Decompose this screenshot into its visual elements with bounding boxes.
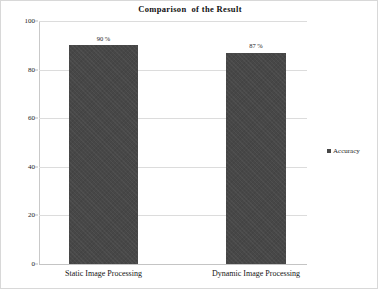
chart-figure: Comparison of the Result 100 80 60 40 20… [0, 0, 378, 289]
y-tick-mark-40 [35, 166, 38, 167]
y-tick-label-0: 0 [9, 260, 35, 268]
y-tick-label-40: 40 [9, 163, 35, 171]
chart-title: Comparison of the Result [1, 4, 378, 14]
y-axis: 100 80 60 40 20 0 [1, 21, 35, 264]
y-tick-label-100: 100 [9, 17, 35, 25]
legend-label-accuracy: Accuracy [333, 147, 360, 155]
y-tick-mark-0 [35, 264, 38, 265]
y-tick-label-80: 80 [9, 66, 35, 74]
bar-static-image-processing[interactable] [69, 45, 138, 264]
x-category-label-dynamic: Dynamic Image Processing [212, 269, 300, 278]
legend[interactable]: Accuracy [327, 147, 360, 155]
y-tick-label-60: 60 [9, 114, 35, 122]
x-axis: Static Image Processing Dynamic Image Pr… [39, 269, 307, 285]
gridline-0 [39, 264, 307, 265]
bar-value-label-dynamic: 87 % [249, 42, 263, 49]
plot-area: 90 % 87 % [39, 21, 307, 264]
bar-value-label-static: 90 % [97, 35, 111, 42]
legend-swatch-icon [327, 149, 331, 153]
gridline-100 [39, 21, 307, 22]
bar-dynamic-image-processing[interactable] [226, 53, 286, 264]
y-tick-mark-20 [35, 215, 38, 216]
x-category-label-static: Static Image Processing [65, 269, 142, 278]
y-tick-mark-100 [35, 21, 38, 22]
y-tick-label-20: 20 [9, 211, 35, 219]
y-tick-mark-80 [35, 69, 38, 70]
y-tick-mark-60 [35, 118, 38, 119]
